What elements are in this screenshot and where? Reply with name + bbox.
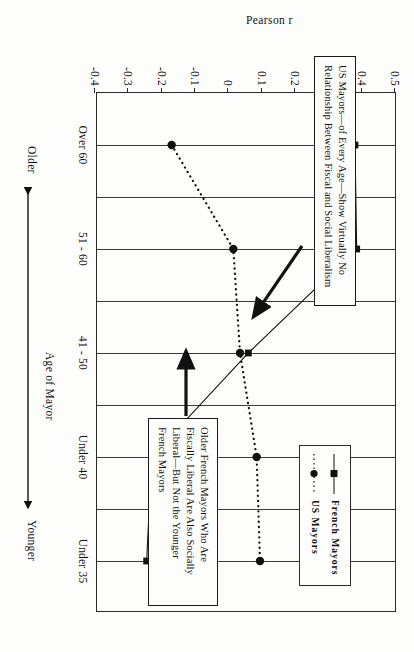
chart-canvas: Pearson r 0.50.40.30.20.10-0.1-0.2-0.3-0… — [0, 0, 414, 652]
direction-arrow — [22, 186, 34, 516]
x-axis-title: Age of Mayor — [44, 352, 56, 421]
annotation-arrows — [0, 0, 414, 652]
direction-label-older: Older — [26, 146, 38, 174]
annotation-arrow-us — [254, 246, 302, 316]
rotated-page-wrapper: Pearson r 0.50.40.30.20.10-0.1-0.2-0.3-0… — [0, 0, 414, 652]
direction-label-younger: Younger — [26, 520, 38, 561]
